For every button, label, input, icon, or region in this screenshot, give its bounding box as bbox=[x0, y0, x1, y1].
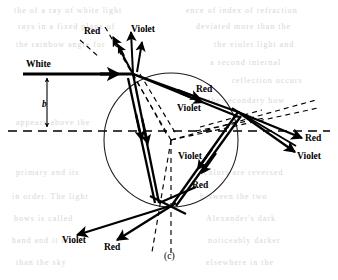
exit-rays-right bbox=[232, 108, 302, 152]
violet-label-exit-left: Violet bbox=[62, 236, 86, 246]
normal-at-lower-reflection-violet bbox=[152, 140, 171, 252]
figure-page: the of a ray of white lightence of index… bbox=[0, 0, 338, 280]
red-label-right-exit: Red bbox=[305, 134, 321, 144]
exit-rays-lower-left bbox=[77, 187, 196, 240]
violet-label-right-exit: Violet bbox=[297, 152, 321, 162]
dashed-incident-extension bbox=[80, 40, 100, 58]
red-label-lower-inner: Red bbox=[192, 181, 208, 191]
white-ray-label: White bbox=[26, 60, 51, 70]
impact-parameter-label: b bbox=[42, 100, 47, 110]
red-label-exit-left: Red bbox=[104, 243, 120, 253]
red-label-top: Red bbox=[84, 27, 100, 37]
violet-label-top: Violet bbox=[131, 25, 155, 35]
violet-label-lower: Violet bbox=[178, 152, 202, 162]
red-label-inner-upper: Red bbox=[196, 85, 212, 95]
external-reflected-rays-at-entry bbox=[113, 32, 142, 74]
violet-label-inner: Violet bbox=[177, 104, 201, 114]
figure-caption: (c) bbox=[164, 252, 175, 262]
surface-normal-lines bbox=[80, 27, 318, 256]
raindrop-ray-diagram bbox=[0, 0, 338, 280]
